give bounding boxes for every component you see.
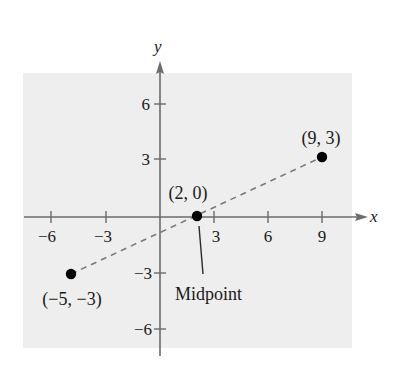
x-tick-label: 9 [318,227,327,246]
y-tick-label: 6 [142,95,151,114]
y-tick-label: −3 [134,264,152,283]
y-tick-label: 3 [142,150,151,169]
x-tick-label: −3 [94,227,112,246]
point-end-label: (9, 3) [302,128,341,149]
midpoint-annotation: Midpoint [175,284,242,304]
point-midpoint-label: (2, 0) [169,183,208,204]
x-tick-label: 3 [212,227,221,246]
point-start [66,269,76,279]
x-tick-label: 6 [264,227,273,246]
point-start-label: (−5, −3) [42,289,101,310]
midpoint-chart: x y −6 −3 3 6 9 6 3 −3 −6 ( [0,0,401,367]
point-end [317,152,327,162]
x-tick-label: −6 [38,227,56,246]
x-axis-label: x [369,207,378,226]
point-midpoint [192,211,202,221]
y-tick-label: −6 [134,320,152,339]
y-axis-label: y [152,37,162,56]
